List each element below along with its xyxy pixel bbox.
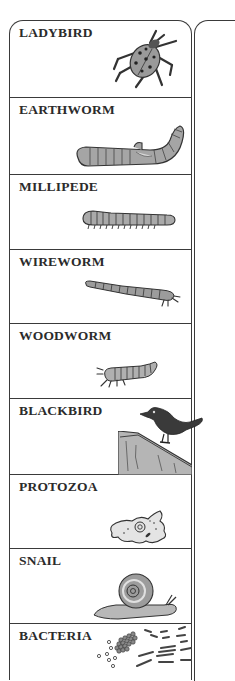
soil-organisms-card: LADYBIRD xyxy=(9,20,192,680)
list-item-ladybird: LADYBIRD xyxy=(10,21,191,98)
item-label: BACTERIA xyxy=(19,628,92,644)
blackbird-icon xyxy=(138,402,204,446)
list-item-millipede: MILLIPEDE xyxy=(10,175,191,250)
list-item-bacteria: BACTERIA xyxy=(10,624,191,681)
list-item-woodworm: WOODWORM xyxy=(10,324,191,399)
ladybird-icon xyxy=(110,29,180,91)
list-item-blackbird: BLACKBIRD xyxy=(10,399,191,475)
list-item-snail: SNAIL xyxy=(10,549,191,624)
wireworm-icon xyxy=(82,278,182,308)
item-label: EARTHWORM xyxy=(19,102,115,118)
earthworm-icon xyxy=(70,120,185,170)
list-item-protozoa: PROTOZOA xyxy=(10,475,191,549)
millipede-icon xyxy=(79,207,179,231)
item-label: LADYBIRD xyxy=(19,25,93,41)
item-label: PROTOZOA xyxy=(19,479,98,495)
item-label: WOODWORM xyxy=(19,328,111,344)
item-label: SNAIL xyxy=(19,553,61,569)
item-label: BLACKBIRD xyxy=(19,403,103,419)
list-item-wireworm: WIREWORM xyxy=(10,250,191,324)
woodworm-icon xyxy=(95,360,165,390)
snail-icon xyxy=(88,569,182,621)
adjacent-card-edge xyxy=(194,20,235,681)
bacteria-icon xyxy=(95,626,193,672)
list-item-earthworm: EARTHWORM xyxy=(10,98,191,175)
protozoa-icon xyxy=(106,509,170,547)
item-label: MILLIPEDE xyxy=(19,179,98,195)
item-label: WIREWORM xyxy=(19,254,105,270)
